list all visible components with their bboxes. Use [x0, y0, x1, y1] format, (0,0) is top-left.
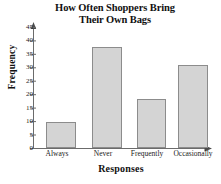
y-tick-label: 10 — [17, 118, 33, 125]
bar-occasionally — [178, 65, 208, 148]
y-tick-label: 5 — [17, 132, 33, 139]
bar-chart: How Often Shoppers Bring Their Own Bags … — [0, 0, 221, 184]
y-tick-label: 15 — [17, 105, 33, 112]
bar-frequently — [137, 99, 166, 148]
y-tick-label: 30 — [17, 64, 33, 71]
y-tick-label: 40 — [17, 37, 33, 44]
chart-title-line-1: How Often Shoppers Bring — [55, 2, 175, 13]
y-tick-label: 0 — [17, 145, 33, 152]
chart-title: How Often Shoppers Bring Their Own Bags — [30, 2, 200, 25]
y-tick-label: 45 — [17, 24, 33, 31]
y-tick-label: 20 — [17, 91, 33, 98]
y-tick-label: 35 — [17, 51, 33, 58]
bar-always — [46, 122, 76, 148]
x-axis-title: Responses — [33, 163, 209, 174]
x-tick-label-always: Always — [34, 149, 80, 158]
y-tick-label: 25 — [17, 78, 33, 85]
bar-never — [92, 47, 122, 148]
x-axis-tick-labels: Always Never Frequently Occasionally — [33, 149, 209, 161]
y-axis-title: Frequency — [7, 33, 17, 101]
x-tick-label-occasionally: Occasionally — [164, 149, 221, 158]
chart-title-line-2: Their Own Bags — [30, 14, 200, 26]
bar-series — [36, 26, 208, 148]
